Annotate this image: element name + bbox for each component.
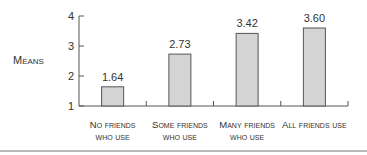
bar [303,28,325,106]
x-category-label: No friends [90,119,136,130]
y-tick-label: 3 [68,40,74,52]
x-category-label: All friends use [282,119,347,130]
bar [169,54,191,106]
y-tick-label: 4 [68,10,74,22]
y-tick-label: 2 [68,70,74,82]
x-category-label: Some friends [152,119,208,130]
x-category-label: Many friends [219,119,275,130]
x-category-label: who use [96,131,130,142]
bar [102,87,124,106]
y-axis-label: Means [13,54,44,66]
bar-value-label: 3.42 [236,17,257,29]
x-category-label: who use [163,131,197,142]
bar [236,33,258,106]
bar-chart: 1234Means1.64No friendswho use2.73Some f… [0,0,367,155]
bar-value-label: 1.64 [102,71,123,83]
y-tick-label: 1 [68,100,74,112]
bar-value-label: 2.73 [169,38,190,50]
x-category-label: who use [230,131,264,142]
bar-value-label: 3.60 [304,12,325,24]
